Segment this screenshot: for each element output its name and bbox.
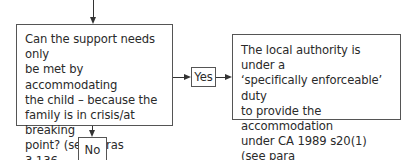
yes-connector-line	[173, 77, 184, 78]
yes-label-box: Yes	[191, 67, 216, 87]
question-box: Can the support needs only be met by acc…	[16, 24, 173, 126]
question-line: the child – because the	[25, 93, 164, 108]
incoming-arrow-head-icon	[90, 17, 96, 24]
outcome-box: The local authority is under a ‘specific…	[232, 34, 401, 120]
no-label-box: No	[78, 137, 107, 160]
outcome-arrow-head-icon	[225, 74, 232, 80]
no-arrow-head-icon	[89, 130, 95, 137]
outcome-line: The local authority is under a	[241, 43, 392, 73]
question-line: Can the support needs only	[25, 32, 164, 62]
incoming-connector-line	[93, 0, 94, 17]
question-line: be met by accommodating	[25, 62, 164, 92]
outcome-connector-line	[216, 77, 225, 78]
outcome-line: ‘specifically enforceable’ duty	[241, 73, 392, 103]
yes-arrow-head-icon	[184, 74, 191, 80]
outcome-line: under CA 1989 s20(1) (see para	[241, 134, 392, 160]
outcome-line: to provide the accommodation	[241, 104, 392, 134]
